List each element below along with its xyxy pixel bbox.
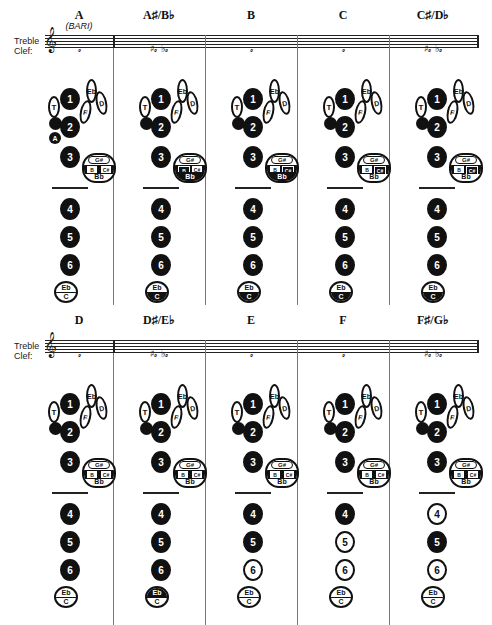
low-a-label: A (52, 135, 57, 142)
thumb-label: T (327, 103, 332, 112)
hand-divider (52, 187, 88, 189)
gs-key: G# (363, 156, 385, 164)
note-name: D♯/E♭ (113, 313, 205, 328)
key-label: 3 (342, 152, 348, 163)
side-d-label: D (373, 404, 379, 412)
key-k3: 3 (427, 451, 447, 473)
side-eb-label: Eb (454, 393, 463, 400)
thumb-label: T (235, 408, 240, 417)
key-label: 4 (250, 509, 256, 520)
low-c-key: C (423, 597, 443, 606)
key-k4: 4 (151, 198, 171, 220)
side-f-label: F (174, 108, 180, 116)
key-k5: 5 (243, 531, 263, 553)
note-column: A(BARI)𝅗TA123EbFDG#BC#Bb456EbC (45, 0, 113, 300)
key-label: 1 (342, 94, 348, 105)
bb-label: Bb (461, 478, 470, 485)
key-label: 6 (342, 260, 348, 271)
bb-label: Bb (461, 173, 470, 180)
thumb-label: T (419, 408, 424, 417)
key-label: 4 (434, 204, 440, 215)
low-eb-c-key: EbC (54, 586, 78, 608)
gs-key: G# (455, 461, 477, 469)
hand-divider (52, 492, 88, 494)
pinky-cluster: G#BC#Bb (173, 153, 207, 183)
hand-divider (419, 492, 455, 494)
note-name: C (297, 8, 389, 23)
low-eb-c-key: EbC (329, 586, 353, 608)
key-k4: 4 (335, 503, 355, 525)
key-label: 1 (158, 399, 164, 410)
key-label: 1 (67, 399, 73, 410)
key-k4: 4 (243, 198, 263, 220)
hand-divider (327, 492, 363, 494)
key-label: 2 (434, 122, 440, 133)
side-f-label: F (358, 108, 364, 116)
key-k4: 4 (151, 503, 171, 525)
bb-key: Bb (267, 172, 297, 181)
hand-divider (419, 187, 455, 189)
key-k1: 1 (60, 88, 80, 110)
key-label: 4 (250, 204, 256, 215)
bb-key: Bb (175, 172, 205, 181)
pinky-cluster: G#BC#Bb (449, 458, 483, 488)
chart-row-bottom: TrebleClef:𝄞D𝅗T123EbFDG#BC#Bb456EbCD♯/E♭… (0, 305, 492, 621)
key-k6: 6 (151, 254, 171, 276)
bb-key: Bb (451, 477, 481, 486)
note-column: E𝅗T123EbFDG#BC#Bb456EbC (205, 305, 297, 605)
side-d-key: D (277, 90, 293, 116)
bb-key: Bb (359, 477, 389, 486)
staff-note-icon: 𝅗 (45, 43, 113, 55)
key-k5: 5 (60, 531, 80, 553)
thumb-label: T (143, 103, 148, 112)
side-d-label: D (189, 404, 195, 412)
side-f-label: F (450, 413, 456, 421)
key-label: 1 (434, 94, 440, 105)
key-label: 2 (67, 427, 73, 438)
key-label: 2 (158, 122, 164, 133)
staff-note-icon: ♯𝅗 ♭𝅗 (113, 43, 205, 55)
note-name: E (205, 313, 297, 328)
low-eb-label: Eb (245, 589, 254, 596)
key-k5: 5 (151, 531, 171, 553)
gs-label: G# (278, 462, 286, 468)
key-k6: 6 (427, 254, 447, 276)
key-k2: 2 (243, 116, 263, 138)
key-label: 2 (250, 427, 256, 438)
key-k5: 5 (60, 226, 80, 248)
pinky-cluster: G#BC#Bb (265, 458, 299, 488)
low-eb-label: Eb (337, 284, 346, 291)
low-c-label: C (154, 598, 159, 605)
low-c-key: C (147, 292, 167, 301)
key-label: 3 (158, 457, 164, 468)
note-column: C♯/D♭♯𝅗 ♭𝅗T123EbFDG#BC#Bb456EbC (389, 0, 477, 300)
side-d-key: D (369, 395, 385, 421)
low-c-key: C (331, 292, 351, 301)
key-label: 1 (250, 94, 256, 105)
gs-key: G# (271, 461, 293, 469)
key-k5: 5 (243, 226, 263, 248)
barline (477, 340, 479, 353)
key-k6: 6 (60, 559, 80, 581)
pinky-cluster: G#BC#Bb (173, 458, 207, 488)
bb-key: Bb (359, 172, 389, 181)
thumb-label: T (327, 408, 332, 417)
bb-key: Bb (267, 477, 297, 486)
low-c-label: C (63, 293, 68, 300)
key-label: 1 (67, 94, 73, 105)
key-label: 6 (250, 565, 256, 576)
low-eb-label: Eb (62, 589, 71, 596)
key-label: 6 (67, 260, 73, 271)
key-k5: 5 (151, 226, 171, 248)
low-eb-label: Eb (153, 284, 162, 291)
key-label: 3 (434, 152, 440, 163)
side-d-label: D (465, 99, 471, 107)
key-k2: 2 (60, 421, 80, 443)
barline (477, 35, 479, 48)
staff-note-icon: 𝅗 (205, 348, 297, 360)
key-label: 5 (250, 537, 256, 548)
key-label: 4 (342, 509, 348, 520)
hand-divider (143, 492, 179, 494)
key-k6: 6 (151, 559, 171, 581)
key-k5: 5 (427, 531, 447, 553)
